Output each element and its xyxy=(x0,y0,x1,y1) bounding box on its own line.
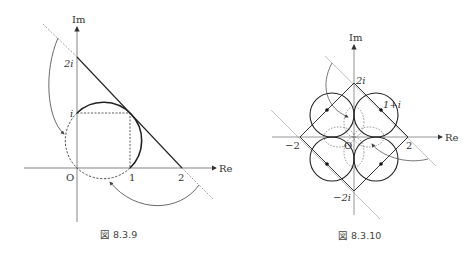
caption-8-3-9: 図 8.3.9 xyxy=(100,229,137,240)
tick-neg-2: −2 xyxy=(285,140,300,151)
line-extension-lower xyxy=(182,168,213,199)
figure-8-3-10: Im Re 2i −2i O 2 −2 1+i 図 8.3.10 xyxy=(271,32,459,241)
tick-2: 2 xyxy=(178,172,184,183)
re-axis-label: Re xyxy=(445,132,459,143)
mapping-arrow-lower xyxy=(110,182,199,206)
tick-2: 2 xyxy=(406,140,412,151)
tick-i: i xyxy=(70,108,73,119)
circle-q4 xyxy=(354,137,398,181)
tick-origin: O xyxy=(66,172,74,183)
figure-8-3-9: Im Re 2i i O 1 2 図 8.3.9 xyxy=(24,14,233,240)
mapping-arrow-upper xyxy=(49,38,64,134)
tick-1: 1 xyxy=(129,172,135,183)
tangent-dot-q2 xyxy=(325,108,329,112)
tangent-dot-q4 xyxy=(379,162,383,166)
im-axis-label: Im xyxy=(72,14,86,25)
tick-origin: O xyxy=(344,140,352,151)
mapping-arrow-lower xyxy=(372,144,428,161)
line-extension-upper xyxy=(43,24,77,57)
circle-q2 xyxy=(310,93,354,137)
image-circle-solid-arc xyxy=(77,102,142,168)
re-axis-label: Re xyxy=(219,163,233,174)
mapping-arrow-upper xyxy=(326,63,348,117)
tick-neg-2i: −2i xyxy=(333,192,351,203)
dashed-square xyxy=(77,113,130,168)
tick-2i: 2i xyxy=(355,75,366,86)
diagrams-canvas: Im Re 2i i O 1 2 図 8.3.9 xyxy=(0,0,469,255)
tangent-dot-q3 xyxy=(325,162,329,166)
tick-1-plus-i: 1+i xyxy=(383,99,401,110)
caption-8-3-10: 図 8.3.10 xyxy=(338,230,381,241)
image-circle-dashed-arc xyxy=(65,113,130,179)
tick-2i: 2i xyxy=(63,58,74,69)
im-axis-label: Im xyxy=(349,32,363,43)
